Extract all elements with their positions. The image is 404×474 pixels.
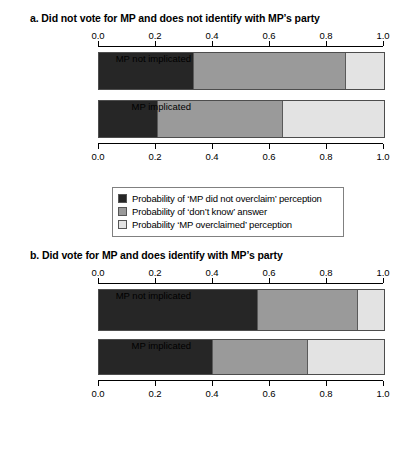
- panel-a-category-label-1: MP implicated: [51, 101, 191, 112]
- panel-a-top-ticklabel-5: 1.0: [363, 30, 403, 41]
- panel-a-legend-label-dont-know: Probability of ‘don’t know’ answer: [132, 206, 267, 217]
- panel-a-bottom-axis-line: [98, 143, 383, 144]
- panel-b: b. Did vote for MP and does identify wit…: [0, 237, 404, 474]
- panel-a-category-label-0: MP not implicated: [51, 53, 191, 64]
- panel-a-top-tick-4: [326, 41, 327, 46]
- panel-a-legend-swatch-overclaimed: [118, 220, 127, 229]
- panel-a-legend-label-did-not-overclaim: Probability of ‘MP did not overclaim’ pe…: [132, 193, 322, 204]
- panel-a-bottom-ticklabel-3: 0.6: [249, 151, 289, 162]
- panel-a-bar-1-segment-overclaimed: [282, 101, 384, 137]
- panel-b-bottom-ticklabel-5: 1.0: [363, 388, 403, 399]
- panel-a-bottom-tick-5: [383, 144, 384, 149]
- panel-a-legend-item-dont-know: Probability of ‘don’t know’ answer: [118, 205, 338, 218]
- panel-b-top-axis-line: [98, 283, 383, 284]
- panel-a-top-ticklabel-4: 0.8: [306, 30, 346, 41]
- panel-a-legend-item-overclaimed: Probability ‘MP overclaimed’ perception: [118, 218, 338, 231]
- panel-b-bottom-tick-3: [269, 381, 270, 386]
- panel-a-bar-0-segment-dont-know: [193, 53, 346, 89]
- panel-b-category-label-1: MP implicated: [51, 340, 191, 351]
- panel-a-bottom-tick-3: [269, 144, 270, 149]
- panel-a-legend-swatch-dont-know: [118, 207, 127, 216]
- panel-b-category-label-0: MP not implicated: [51, 290, 191, 301]
- panel-a-bar-mp-implicated: MP implicated: [98, 100, 385, 138]
- panel-a-top-axis-line: [98, 46, 383, 47]
- panel-a-plot-area: 0.00.20.40.60.81.0 0.00.20.40.60.81.0 MP…: [0, 30, 404, 160]
- panel-a-top-ticklabel-2: 0.4: [192, 30, 232, 41]
- panel-b-bottom-tick-1: [155, 381, 156, 386]
- panel-b-bar-0-segment-dont-know: [257, 290, 358, 330]
- panel-a-bottom-ticklabel-0: 0.0: [78, 151, 118, 162]
- panel-b-bottom-ticklabel-3: 0.6: [249, 388, 289, 399]
- panel-a-title: a. Did not vote for MP and does not iden…: [30, 12, 320, 24]
- panel-a-top-ticklabel-0: 0.0: [78, 30, 118, 41]
- panel-a-top-tick-1: [155, 41, 156, 46]
- panel-a-top-tick-0: [98, 41, 99, 46]
- panel-b-bottom-ticklabel-0: 0.0: [78, 388, 118, 399]
- panel-a-top-ticklabel-3: 0.6: [249, 30, 289, 41]
- panel-b-bar-1-segment-overclaimed: [307, 340, 384, 374]
- panel-b-bottom-ticklabel-4: 0.8: [306, 388, 346, 399]
- panel-a: a. Did not vote for MP and does not iden…: [0, 0, 404, 237]
- panel-b-bottom-tick-4: [326, 381, 327, 386]
- panel-a-bottom-ticklabel-2: 0.4: [192, 151, 232, 162]
- panel-b-title: b. Did vote for MP and does identify wit…: [30, 249, 283, 261]
- panel-b-bar-mp-implicated: MP implicated: [98, 339, 385, 375]
- panel-a-top-tick-5: [383, 41, 384, 46]
- panel-a-bottom-tick-1: [155, 144, 156, 149]
- panel-b-top-ticklabel-5: 1.0: [363, 267, 403, 278]
- panel-b-bottom-tick-5: [383, 381, 384, 386]
- panel-a-bottom-tick-0: [98, 144, 99, 149]
- panel-b-bar-1-segment-dont-know: [212, 340, 308, 374]
- panel-b-bar-mp-not-implicated: MP not implicated: [98, 289, 385, 331]
- panel-a-bottom-tick-4: [326, 144, 327, 149]
- panel-b-bottom-tick-2: [212, 381, 213, 386]
- panel-b-top-tick-0: [98, 278, 99, 283]
- panel-a-legend-label-overclaimed: Probability ‘MP overclaimed’ perception: [132, 219, 292, 230]
- panel-b-top-tick-2: [212, 278, 213, 283]
- panel-a-bottom-ticklabel-4: 0.8: [306, 151, 346, 162]
- panel-a-bar-mp-not-implicated: MP not implicated: [98, 52, 385, 90]
- panel-b-bottom-axis-line: [98, 380, 383, 381]
- figure-root: { "colors": { "dark": "#262626", "mid": …: [0, 0, 404, 474]
- panel-b-top-tick-5: [383, 278, 384, 283]
- panel-a-bottom-ticklabel-1: 0.2: [135, 151, 175, 162]
- panel-a-legend-item-did-not-overclaim: Probability of ‘MP did not overclaim’ pe…: [118, 192, 338, 205]
- panel-a-top-tick-2: [212, 41, 213, 46]
- panel-b-top-tick-4: [326, 278, 327, 283]
- panel-b-bottom-tick-0: [98, 381, 99, 386]
- panel-b-top-ticklabel-3: 0.6: [249, 267, 289, 278]
- panel-b-top-tick-3: [269, 278, 270, 283]
- panel-b-top-ticklabel-2: 0.4: [192, 267, 232, 278]
- panel-b-bottom-ticklabel-2: 0.4: [192, 388, 232, 399]
- panel-a-legend-swatch-did-not-overclaim: [118, 194, 127, 203]
- panel-b-top-ticklabel-4: 0.8: [306, 267, 346, 278]
- panel-a-bar-0-segment-overclaimed: [345, 53, 384, 89]
- panel-b-plot-area: 0.00.20.40.60.81.0 0.00.20.40.60.81.0 MP…: [0, 267, 404, 397]
- panel-b-top-ticklabel-0: 0.0: [78, 267, 118, 278]
- panel-b-top-ticklabel-1: 0.2: [135, 267, 175, 278]
- panel-b-bottom-ticklabel-1: 0.2: [135, 388, 175, 399]
- panel-a-top-ticklabel-1: 0.2: [135, 30, 175, 41]
- panel-b-top-tick-1: [155, 278, 156, 283]
- panel-a-bottom-ticklabel-5: 1.0: [363, 151, 403, 162]
- panel-a-top-tick-3: [269, 41, 270, 46]
- panel-a-legend: Probability of ‘MP did not overclaim’ pe…: [112, 187, 344, 237]
- panel-a-bottom-tick-2: [212, 144, 213, 149]
- panel-b-bar-0-segment-overclaimed: [357, 290, 384, 330]
